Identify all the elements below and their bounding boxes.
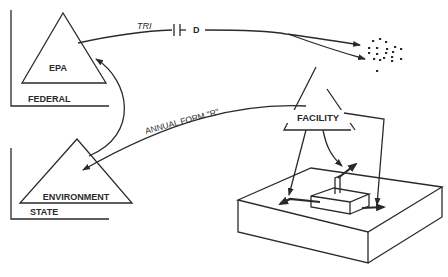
epa-label: EPA <box>49 63 67 73</box>
public-dots-icon <box>368 38 402 72</box>
release-water-arrow <box>362 207 384 208</box>
tri-d-label: D <box>193 25 200 35</box>
facility-release-arrows <box>289 130 342 195</box>
federal-label: FEDERAL <box>28 94 71 104</box>
release-land-arrow <box>280 199 320 204</box>
facility-building <box>311 176 369 214</box>
release-air-arrow <box>338 164 356 178</box>
tri-label: TRI <box>137 21 152 31</box>
tri-reporting-diagram: EPA FEDERAL ENVIRONMENT STATE TRI D <box>0 0 448 277</box>
tri-flow-arrow <box>78 24 365 59</box>
env-to-epa-arrow <box>89 59 124 156</box>
environment-label: ENVIRONMENT <box>43 192 110 202</box>
federal-box <box>11 10 109 106</box>
facility-label: FACILITY <box>297 112 340 123</box>
annual-form-r-label: ANNUAL FORM "R" <box>144 107 220 136</box>
state-label: STATE <box>30 207 58 217</box>
